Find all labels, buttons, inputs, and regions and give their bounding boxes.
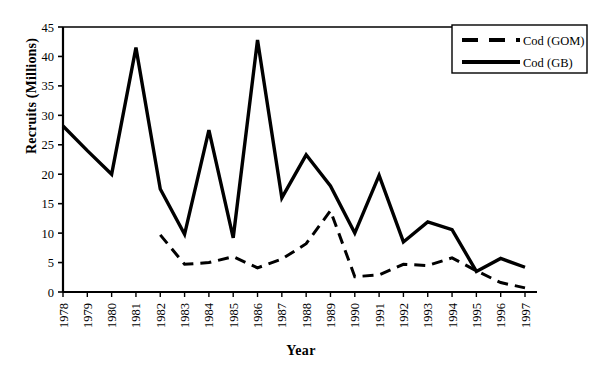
x-tick-label: 1986 (251, 303, 265, 328)
x-tick-label: 1987 (275, 303, 289, 328)
plot-area: 0510152025303540451978197919801981198219… (0, 0, 602, 371)
x-tick-label: 1979 (81, 303, 95, 328)
line-chart-svg: 0510152025303540451978197919801981198219… (0, 0, 602, 371)
x-tick-label: 1996 (494, 303, 508, 328)
x-tick-label: 1988 (300, 303, 314, 328)
y-tick-label: 20 (42, 168, 55, 182)
legend-label: Cod (GB) (523, 56, 573, 70)
legend-label: Cod (GOM) (523, 34, 584, 48)
y-tick-label: 40 (42, 50, 55, 64)
y-tick-label: 35 (42, 79, 55, 93)
x-tick-label: 1985 (227, 303, 241, 328)
x-tick-label: 1978 (57, 303, 71, 328)
x-tick-label: 1989 (324, 303, 338, 328)
x-tick-label: 1997 (519, 303, 533, 328)
x-tick-label: 1992 (397, 303, 411, 328)
y-tick-label: 30 (42, 109, 55, 123)
y-tick-label: 0 (48, 286, 54, 300)
x-tick-label: 1984 (202, 302, 216, 328)
y-tick-label: 15 (42, 197, 55, 211)
x-tick-label: 1982 (154, 303, 168, 328)
x-tick-label: 1981 (129, 303, 143, 328)
x-tick-label: 1990 (348, 303, 362, 328)
y-tick-label: 5 (48, 256, 54, 270)
series-line-cod-gb (63, 40, 525, 271)
y-tick-label: 45 (42, 21, 55, 35)
y-tick-label: 10 (42, 227, 55, 241)
x-tick-label: 1980 (105, 303, 119, 328)
series-line-cod-gom (160, 211, 525, 288)
chart-figure: Recruits (Millions) Year 051015202530354… (0, 0, 602, 371)
x-tick-label: 1995 (470, 303, 484, 328)
y-tick-label: 25 (42, 138, 55, 152)
x-tick-label: 1993 (421, 303, 435, 328)
x-tick-label: 1991 (373, 303, 387, 328)
x-tick-label: 1983 (178, 303, 192, 328)
x-tick-label: 1994 (446, 302, 460, 328)
